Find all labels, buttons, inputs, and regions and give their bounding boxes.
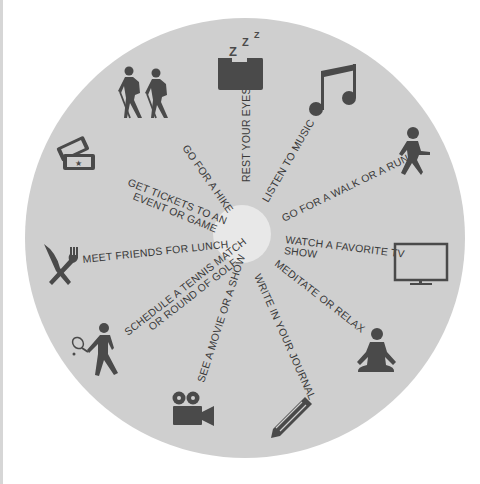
svg-text:Z: Z <box>242 36 249 48</box>
svg-text:Z: Z <box>254 30 260 40</box>
svg-text:★: ★ <box>75 159 82 168</box>
activity-wheel: REST YOUR EYES LISTEN TO MUSIC GO FOR A … <box>0 0 480 484</box>
svg-text:Z: Z <box>229 44 237 59</box>
label-rest-your-eyes: REST YOUR EYES <box>240 87 252 182</box>
